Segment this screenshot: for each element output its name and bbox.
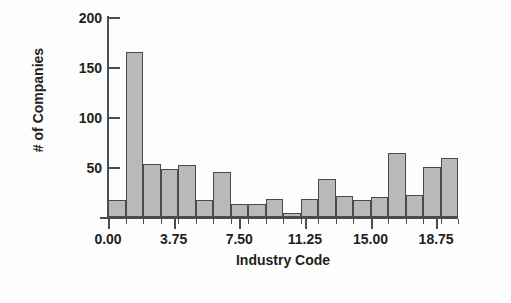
x-tick-label: 7.50 (209, 231, 269, 247)
bar (143, 164, 161, 217)
x-tick-minor (336, 219, 337, 224)
bar (406, 195, 424, 217)
x-tick-minor (353, 219, 354, 224)
x-tick-minor (458, 219, 459, 224)
bar-series (108, 17, 458, 217)
x-tick-minor (196, 219, 197, 224)
bar (266, 199, 284, 217)
x-tick-major (174, 219, 176, 229)
x-tick-minor (143, 219, 144, 224)
y-axis-tick-labels: 200 150 100 50 (46, 0, 102, 303)
bar (283, 213, 301, 217)
x-tick-label: 0.00 (78, 231, 138, 247)
bar (213, 172, 231, 217)
x-tick-minor (441, 219, 442, 224)
x-tick-label: 15.00 (341, 231, 401, 247)
x-tick-minor (318, 219, 319, 224)
bar (126, 52, 144, 217)
x-axis-spine (100, 217, 458, 219)
bar (301, 199, 319, 217)
x-tick-minor (178, 219, 179, 224)
x-tick-minor (283, 219, 284, 224)
x-tick-label: 3.75 (144, 231, 204, 247)
x-tick-major (305, 219, 307, 229)
x-tick-label: 18.75 (406, 231, 466, 247)
bar (178, 165, 196, 217)
bar (161, 169, 179, 217)
x-tick-minor (301, 219, 302, 224)
bar (353, 200, 371, 217)
bar (248, 204, 266, 217)
x-tick-minor (126, 219, 127, 224)
y-tick-label-150: 150 (58, 61, 102, 75)
x-tick-minor (423, 219, 424, 224)
histogram-figure: # of Companies 200 150 100 50 0.003.757.… (0, 0, 511, 303)
y-tick-label-200: 200 (58, 11, 102, 25)
bar (371, 197, 389, 217)
y-tick-label-50: 50 (58, 161, 102, 175)
x-tick-minor (231, 219, 232, 224)
x-tick-major (108, 219, 110, 229)
x-tick-minor (161, 219, 162, 224)
x-tick-major (239, 219, 241, 229)
y-tick-label-100: 100 (58, 111, 102, 125)
x-tick-major (436, 219, 438, 229)
bar (441, 158, 459, 217)
x-axis-label: Industry Code (108, 252, 458, 268)
x-tick-minor (248, 219, 249, 224)
bar (196, 200, 214, 217)
bar (423, 167, 441, 217)
x-tick-minor (388, 219, 389, 224)
x-tick-minor (266, 219, 267, 224)
bar (388, 153, 406, 217)
x-tick-minor (213, 219, 214, 224)
bar (231, 204, 249, 217)
x-tick-minor (406, 219, 407, 224)
bar (108, 200, 126, 217)
x-tick-label: 11.25 (275, 231, 335, 247)
bar (336, 196, 354, 217)
bar (318, 179, 336, 217)
x-tick-major (371, 219, 373, 229)
